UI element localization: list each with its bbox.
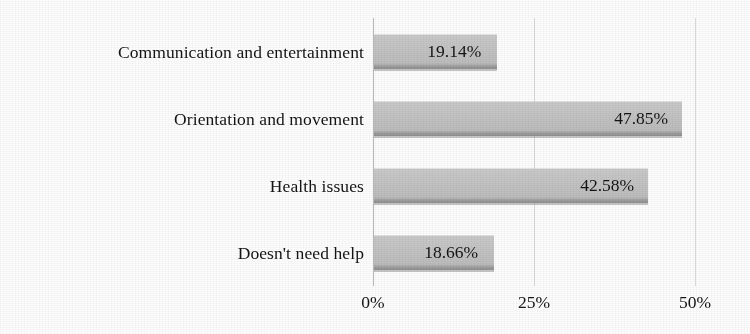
category-label-1: Communication and entertainment (118, 41, 364, 62)
category-label-3: Health issues (270, 175, 364, 196)
x-axis: 0% 25% 50% (373, 292, 695, 322)
gridline-50-percent (695, 18, 696, 286)
bar-value-label-1: 19.14% (427, 41, 481, 62)
bar-rows: Communication and entertainment 19.14% O… (373, 18, 695, 286)
category-label-4: Doesn't need help (238, 242, 364, 263)
bar-value-label-2: 47.85% (614, 108, 668, 129)
plot-area: Communication and entertainment 19.14% O… (373, 18, 695, 286)
bar-row-communication-and-entertainment: Communication and entertainment 19.14% (373, 18, 695, 85)
bar-row-doesnt-need-help: Doesn't need help 18.66% (373, 219, 695, 286)
bar-row-health-issues: Health issues 42.58% (373, 152, 695, 219)
bar-2: 47.85% (374, 101, 682, 136)
bar-4: 18.66% (374, 235, 494, 270)
category-label-2: Orientation and movement (174, 108, 364, 129)
bar-row-orientation-and-movement: Orientation and movement 47.85% (373, 85, 695, 152)
x-tick-label-25: 25% (518, 292, 550, 313)
bar-value-label-3: 42.58% (580, 175, 634, 196)
x-tick-label-0: 0% (361, 292, 384, 313)
bar-chart: Communication and entertainment 19.14% O… (0, 0, 750, 334)
x-tick-label-50: 50% (679, 292, 711, 313)
bar-1: 19.14% (374, 34, 497, 69)
bar-3: 42.58% (374, 168, 648, 203)
bar-value-label-4: 18.66% (424, 242, 478, 263)
